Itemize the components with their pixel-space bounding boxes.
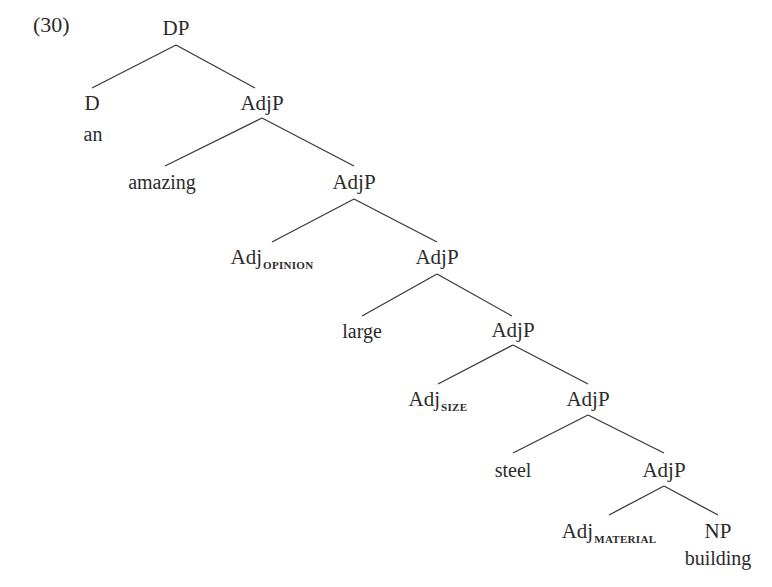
edge-adjp3-large (362, 274, 437, 316)
adj-label: Adj (409, 387, 441, 411)
adj-label: Adj (562, 519, 594, 543)
node-adjp-4: AdjP (491, 318, 534, 342)
node-d: D (84, 91, 99, 115)
edge-adjp6-np (664, 486, 718, 515)
node-dp: DP (163, 16, 190, 40)
node-adjp-2: AdjP (332, 170, 375, 194)
word-steel: steel (495, 458, 532, 482)
edge-adjp4-adj-size (438, 345, 513, 384)
tree-edges (0, 0, 772, 587)
word-building: building (685, 546, 752, 570)
word-amazing: amazing (128, 170, 196, 194)
node-adjp-3: AdjP (415, 245, 458, 269)
edge-dp-adjp1 (176, 45, 255, 88)
edge-adjp1-adjp2 (262, 118, 354, 166)
node-adjp-1: AdjP (240, 91, 283, 115)
node-adjp-6: AdjP (642, 458, 685, 482)
node-adjp-5: AdjP (566, 387, 609, 411)
node-adj-opinion: Adjopinion (231, 245, 314, 277)
edge-adjp5-steel (513, 415, 588, 453)
edge-adjp3-adjp4 (437, 274, 512, 316)
edge-adjp4-adjp5 (513, 345, 588, 384)
edge-adjp6-adj-material (609, 486, 664, 515)
node-np: NP (705, 519, 732, 543)
edge-adjp2-adj-opinion (272, 199, 354, 242)
subscript-material: material (594, 533, 656, 545)
edge-adjp1-amazing (165, 118, 262, 166)
subscript-opinion: opinion (263, 259, 313, 271)
edge-adjp2-adjp3 (354, 199, 437, 242)
subscript-size: size (441, 401, 467, 413)
word-an: an (84, 122, 103, 146)
node-adj-size: Adjsize (409, 387, 468, 419)
node-adj-material: Adjmaterial (562, 519, 657, 551)
adj-label: Adj (231, 245, 263, 269)
edge-dp-d (92, 45, 176, 88)
syntax-tree-diagram: (30) DP D an AdjP amazing AdjP Adjopinio… (0, 0, 772, 587)
edge-adjp5-adjp6 (588, 415, 664, 453)
word-large: large (342, 319, 382, 343)
